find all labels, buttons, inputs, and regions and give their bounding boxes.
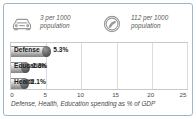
stat-value-telephones-line1: 112 per 1000 xyxy=(131,14,168,21)
bar-value-education: 2.3% xyxy=(32,60,47,71)
bar-chart-plot-area: Defense5.3%Education2.3%Health2.1% xyxy=(10,42,188,90)
bar-row: Defense5.3% xyxy=(11,44,187,58)
stat-value-telephones: 112 per 1000 population xyxy=(131,14,168,29)
stat-value-telephones-line2: population xyxy=(131,22,168,30)
bar-row: Education2.3% xyxy=(11,60,187,74)
gridline xyxy=(187,43,188,89)
x-tick-label: 25 xyxy=(180,91,187,98)
bar-row: Health2.1% xyxy=(11,76,187,90)
stat-value-cars-line1: 3 per 1000 xyxy=(40,14,71,21)
infographic-panel: 3 per 1000 population 112 per 1000 popul… xyxy=(3,3,193,116)
chart-caption: Defense, Health, Education spending as %… xyxy=(11,100,191,107)
x-tick-label: 10 xyxy=(77,91,84,98)
x-tick-label: 15 xyxy=(112,91,119,98)
bar-label-defense: Defense xyxy=(14,44,40,55)
stat-item-cars: 3 per 1000 population xyxy=(4,10,98,34)
stat-item-telephones: 112 per 1000 population xyxy=(98,10,192,34)
x-axis: 0510152025 xyxy=(10,91,188,100)
car-icon xyxy=(9,10,35,34)
x-tick-label: 0 xyxy=(10,91,13,98)
x-tick-label: 5 xyxy=(43,91,46,98)
bar-value-defense: 5.3% xyxy=(53,44,68,55)
bar-end-marker xyxy=(42,46,51,57)
telephone-circle-icon xyxy=(100,10,126,34)
bar-value-health: 2.1% xyxy=(31,76,46,87)
stat-value-cars-line2: population xyxy=(40,22,71,30)
stat-value-cars: 3 per 1000 population xyxy=(40,14,71,29)
stat-strip: 3 per 1000 population 112 per 1000 popul… xyxy=(4,4,192,40)
x-tick-label: 20 xyxy=(147,91,154,98)
